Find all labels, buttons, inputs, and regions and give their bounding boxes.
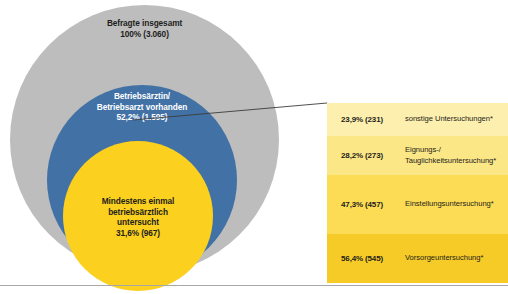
circle-middle-line-1: Betriebsärztin/ [47, 91, 237, 102]
panel-row-vorsorge[interactable]: 56,4% (545) Vorsorgeuntersuchung* [327, 234, 508, 283]
examination-types-panel: 23,9% (231) sonstige Untersuchungen* 28,… [327, 103, 508, 283]
circle-middle-line-3: 52,2% (1.595) [47, 112, 237, 123]
circle-label-total: Befragte insgesamt 100% (3.060) [10, 18, 279, 39]
circle-inner-line-2: betriebsärztlich [63, 207, 213, 218]
circle-label-occupational-physician-available: Betriebsärztin/ Betriebsarzt vorhanden 5… [47, 91, 237, 123]
panel-row-label: Eignungs-/ Tauglichkeitsuntersuchung* [397, 136, 508, 175]
panel-row-label-line-2: Tauglichkeitsuntersuchung* [405, 156, 496, 166]
circle-label-examined-at-least-once: Mindestens einmal betriebsärztlich unter… [63, 196, 213, 238]
circle-total-line-2: 100% (3.060) [10, 29, 279, 40]
circle-inner-line-3: untersucht [63, 217, 213, 228]
panel-row-label-line-1: Eignungs-/ [405, 145, 496, 155]
circle-total-line-1: Befragte insgesamt [10, 18, 279, 29]
baseline-rule [0, 285, 508, 286]
panel-row-label-line-1: Einstellungsuntersuchung* [405, 199, 494, 209]
panel-row-label: sonstige Untersuchungen* [397, 103, 508, 136]
panel-row-label: Vorsorgeuntersuchung* [397, 234, 508, 283]
panel-row-label: Einstellungsuntersuchung* [397, 175, 508, 234]
panel-row-label-line-1: sonstige Untersuchungen* [405, 114, 493, 124]
panel-row-value: 23,9% (231) [327, 103, 397, 136]
panel-row-sonstige[interactable]: 23,9% (231) sonstige Untersuchungen* [327, 103, 508, 136]
panel-row-value: 28,2% (273) [327, 136, 397, 175]
circle-inner-line-4: 31,6% (967) [63, 228, 213, 239]
panel-row-value: 47,3% (457) [327, 175, 397, 234]
panel-row-eignung[interactable]: 28,2% (273) Eignungs-/ Tauglichkeitsunte… [327, 136, 508, 175]
circle-middle-line-2: Betriebsarzt vorhanden [47, 102, 237, 113]
panel-row-value: 56,4% (545) [327, 234, 397, 283]
infographic-figure: Befragte insgesamt 100% (3.060) Betriebs… [0, 0, 508, 294]
panel-row-einstellung[interactable]: 47,3% (457) Einstellungsuntersuchung* [327, 175, 508, 234]
circle-inner-line-1: Mindestens einmal [63, 196, 213, 207]
panel-row-label-line-1: Vorsorgeuntersuchung* [405, 253, 483, 263]
